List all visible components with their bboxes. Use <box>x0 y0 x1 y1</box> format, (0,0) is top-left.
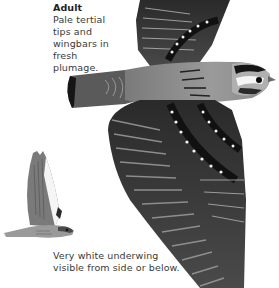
side-view-bird-illustration <box>0 145 80 240</box>
adult-caption: Adult Pale tertial tips and wingbars in … <box>53 2 123 74</box>
underwing-caption-text: Very white underwing visible from side o… <box>53 250 183 274</box>
adult-caption-title: Adult <box>53 2 123 14</box>
field-guide-plate: Adult Pale tertial tips and wingbars in … <box>0 0 279 288</box>
adult-bird-flight-illustration <box>0 0 279 288</box>
underwing-caption: Very white underwing visible from side o… <box>53 250 183 274</box>
adult-caption-text: Pale tertial tips and wingbars in fresh … <box>53 14 123 74</box>
